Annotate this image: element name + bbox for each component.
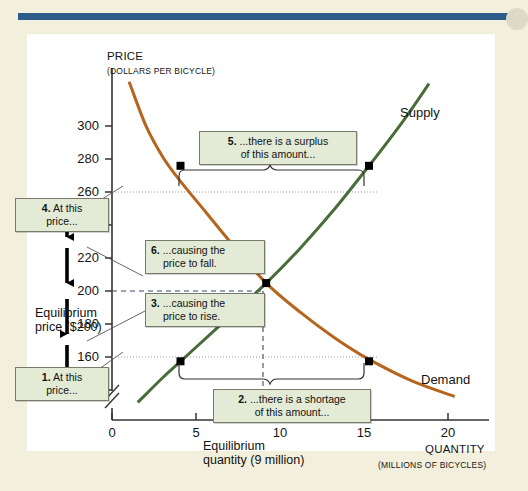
supply-curve-label: Supply [400,105,440,120]
y-axis-title: PRICE [107,50,143,62]
callout-5-surplus[interactable]: 5. ...there is a surplus of this amount.… [199,131,357,165]
callout-5-number: 5. [228,135,237,147]
price-reference-lines [112,192,377,357]
callout-3-line2: price to rise. [163,310,220,322]
x-axis-subtitle: (MILLIONS OF BICYCLES) [378,460,486,470]
demand-curve-label: Demand [421,372,470,387]
callout-6-number: 6. [151,244,160,256]
y-tick-300: 300 [65,118,99,133]
callout-3-line1: ...causing the [163,297,225,309]
x-tick-5: 5 [181,425,211,440]
callout-2-shortage[interactable]: 2. ...there is a shortage of this amount… [213,389,371,423]
x-tick-10: 10 [265,425,295,440]
callout-4-line2: price... [46,215,78,227]
y-tick-260: 260 [65,184,99,199]
callout-1-line2: price... [46,384,78,396]
y-tick-200: 200 [65,283,99,298]
callout-2-number: 2. [238,393,247,405]
callout-1-line1: At this [53,371,82,383]
equilibrium-quantity-label-line1: Equilibrium [203,439,265,453]
marker-supply-at-160 [177,357,185,365]
x-axis-title: QUANTITY [425,443,485,455]
equilibrium-price-label-line1: Equilibrium [35,306,97,320]
callout-2-line2: of this amount... [255,406,330,418]
y-tick-220: 220 [65,250,99,265]
y-tick-280: 280 [65,151,99,166]
equilibrium-quantity-label-line2: quantity (9 million) [203,453,304,467]
y-axis-subtitle: (DOLLARS PER BICYCLE) [107,66,215,76]
callout-3-number: 3. [151,297,160,309]
callout-6-line2: price to fall. [163,257,217,269]
top-rule-decoration [18,13,510,20]
callout-5-line2: of this amount... [241,148,316,160]
shortage-brace [179,363,364,384]
corner-dot-decoration [506,8,528,30]
equilibrium-price-label-line2: price ($200) [35,320,102,334]
callout-1-number: 1. [42,371,51,383]
callout-6-price-to-fall[interactable]: 6. ...causing the price to fall. [145,240,265,274]
callout-4-number: 4. [42,202,51,214]
x-tick-15: 15 [349,425,379,440]
marker-equilibrium [262,279,270,287]
x-tick-0: 0 [97,425,127,440]
marker-supply-at-260 [365,162,373,170]
surplus-brace [179,165,364,186]
callout-4-line1: At this [53,202,82,214]
chart-panel: PRICE (DOLLARS PER BICYCLE) 300 280 260 … [27,34,495,451]
marker-demand-at-160 [365,357,373,365]
callout-2-line1: ...there is a shortage [250,393,346,405]
y-tick-160: 160 [65,349,99,364]
callout-5-line1: ...there is a surplus [239,135,328,147]
callout-1-at-this-price[interactable]: 1. At this price... [15,367,109,401]
callout-6-line1: ...causing the [163,244,225,256]
callout-4-at-this-price[interactable]: 4. At this price... [15,198,109,232]
marker-demand-at-260 [177,162,185,170]
x-tick-20: 20 [433,425,463,440]
callout-3-price-to-rise[interactable]: 3. ...causing the price to rise. [145,293,265,327]
